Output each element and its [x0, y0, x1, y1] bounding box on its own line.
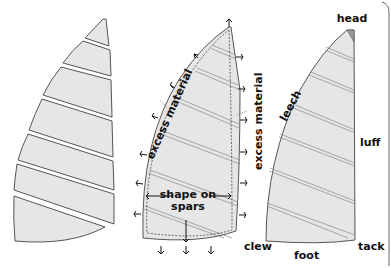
luff-label: luff: [360, 136, 381, 149]
clew-label: clew: [244, 240, 272, 253]
foot-label: foot: [294, 249, 319, 262]
frame-border: [382, 2, 389, 266]
finished-sail-figure: [266, 30, 355, 243]
excess-material-label-right: excess material: [252, 73, 265, 170]
head-label: head: [337, 12, 368, 25]
cut-panels-figure: [14, 19, 114, 242]
tack-label: tack: [358, 240, 385, 253]
sail-diagram: excess material excess material shape on…: [0, 0, 391, 268]
assembled-sail-figure: [134, 19, 247, 254]
shape-on-spars-label-line2: spars: [171, 200, 205, 213]
